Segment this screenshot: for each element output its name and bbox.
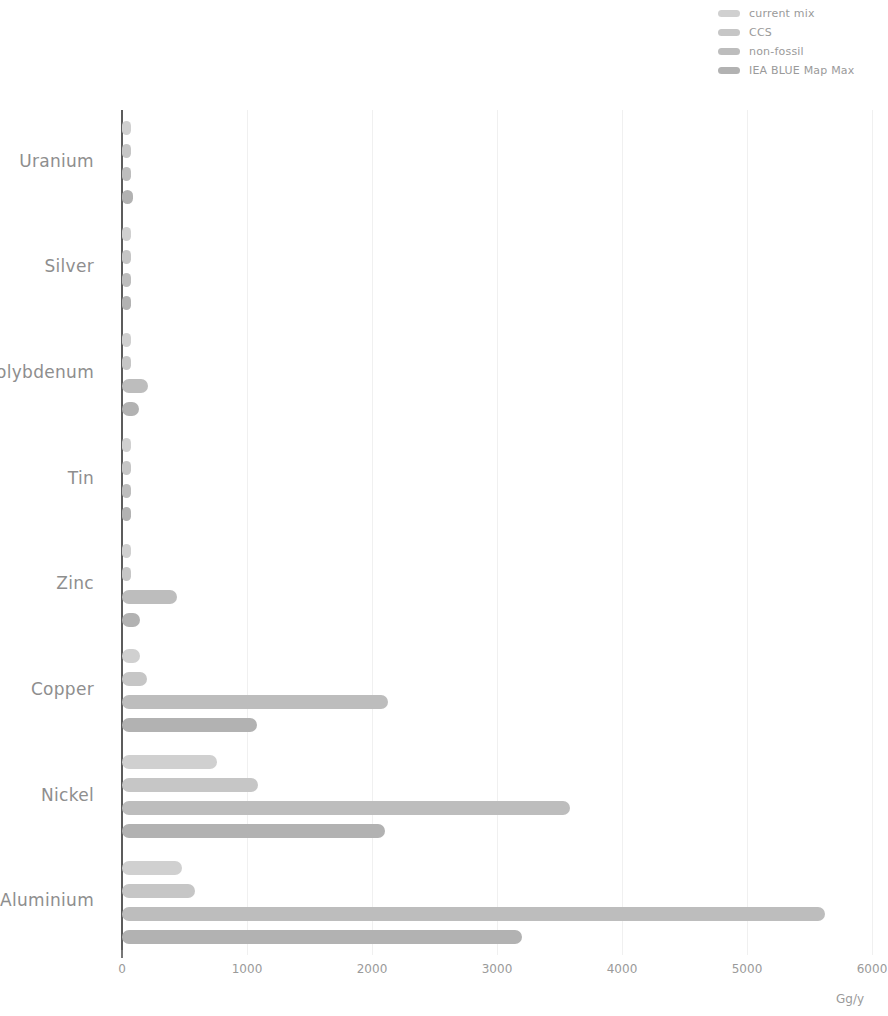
bar-row [122, 167, 872, 181]
bar-iea-blue-map-max[interactable] [122, 402, 139, 416]
bar-ccs[interactable] [122, 778, 258, 792]
bar-row [122, 507, 872, 521]
bar-ccs[interactable] [122, 567, 131, 581]
x-tick-label: 1000 [232, 962, 263, 976]
bar-group: Tin [122, 438, 872, 530]
bar-non-fossil[interactable] [122, 167, 131, 181]
bar-row [122, 379, 872, 393]
x-tick-label: 3000 [482, 962, 513, 976]
bar-group: Zinc [122, 544, 872, 636]
bar-row [122, 778, 872, 792]
bar-chart: UraniumSilverMolybdenumTinZincCopperNick… [0, 0, 888, 1016]
bar-ccs[interactable] [122, 250, 131, 264]
bar-group: Nickel [122, 755, 872, 847]
bar-current-mix[interactable] [122, 438, 131, 452]
bar-row [122, 333, 872, 347]
bar-iea-blue-map-max[interactable] [122, 613, 140, 627]
bar-row [122, 144, 872, 158]
bar-group: Copper [122, 649, 872, 741]
bar-row [122, 227, 872, 241]
bar-non-fossil[interactable] [122, 907, 825, 921]
bar-row [122, 296, 872, 310]
bar-current-mix[interactable] [122, 333, 131, 347]
x-tick-label: 6000 [857, 962, 888, 976]
bar-row [122, 356, 872, 370]
axis-unit-label: Gg/y [836, 992, 864, 1006]
bar-current-mix[interactable] [122, 227, 131, 241]
bar-row [122, 273, 872, 287]
bar-ccs[interactable] [122, 461, 131, 475]
bar-group: Molybdenum [122, 333, 872, 425]
x-tick-label: 0 [118, 962, 126, 976]
bar-non-fossil[interactable] [122, 695, 388, 709]
bar-iea-blue-map-max[interactable] [122, 930, 522, 944]
bar-row [122, 484, 872, 498]
bar-iea-blue-map-max[interactable] [122, 824, 385, 838]
category-label-silver: Silver [0, 256, 94, 276]
bar-ccs[interactable] [122, 144, 131, 158]
category-label-tin: Tin [0, 468, 94, 488]
gridline [872, 110, 873, 955]
bar-row [122, 695, 872, 709]
category-label-uranium: Uranium [0, 151, 94, 171]
bar-row [122, 402, 872, 416]
bar-current-mix[interactable] [122, 649, 140, 663]
bar-non-fossil[interactable] [122, 379, 148, 393]
bar-non-fossil[interactable] [122, 590, 177, 604]
bar-row [122, 907, 872, 921]
bar-row [122, 544, 872, 558]
bar-row [122, 824, 872, 838]
bar-current-mix[interactable] [122, 121, 131, 135]
bar-non-fossil[interactable] [122, 801, 570, 815]
bar-iea-blue-map-max[interactable] [122, 507, 131, 521]
bar-current-mix[interactable] [122, 544, 131, 558]
bar-row [122, 718, 872, 732]
bar-group: Aluminium [122, 861, 872, 953]
category-label-aluminium: Aluminium [0, 890, 94, 910]
bar-iea-blue-map-max[interactable] [122, 190, 133, 204]
bar-row [122, 461, 872, 475]
bar-iea-blue-map-max[interactable] [122, 296, 131, 310]
bar-row [122, 121, 872, 135]
bar-row [122, 801, 872, 815]
bar-row [122, 438, 872, 452]
bar-non-fossil[interactable] [122, 273, 131, 287]
bar-row [122, 613, 872, 627]
bar-row [122, 672, 872, 686]
bar-row [122, 567, 872, 581]
x-tick-label: 4000 [607, 962, 638, 976]
bar-row [122, 590, 872, 604]
bar-non-fossil[interactable] [122, 484, 131, 498]
bar-group: Silver [122, 227, 872, 319]
x-tick-label: 2000 [357, 962, 388, 976]
bar-row [122, 755, 872, 769]
bar-row [122, 649, 872, 663]
bar-group: Uranium [122, 121, 872, 213]
bar-row [122, 861, 872, 875]
bar-row [122, 190, 872, 204]
bar-ccs[interactable] [122, 884, 195, 898]
bar-ccs[interactable] [122, 356, 131, 370]
category-label-nickel: Nickel [0, 785, 94, 805]
bar-current-mix[interactable] [122, 755, 217, 769]
bar-ccs[interactable] [122, 672, 147, 686]
category-label-molybdenum: Molybdenum [0, 362, 94, 382]
bar-iea-blue-map-max[interactable] [122, 718, 257, 732]
x-tick-label: 5000 [732, 962, 763, 976]
bar-current-mix[interactable] [122, 861, 182, 875]
category-label-copper: Copper [0, 679, 94, 699]
category-label-zinc: Zinc [0, 573, 94, 593]
bar-row [122, 250, 872, 264]
bar-row [122, 930, 872, 944]
bar-row [122, 884, 872, 898]
